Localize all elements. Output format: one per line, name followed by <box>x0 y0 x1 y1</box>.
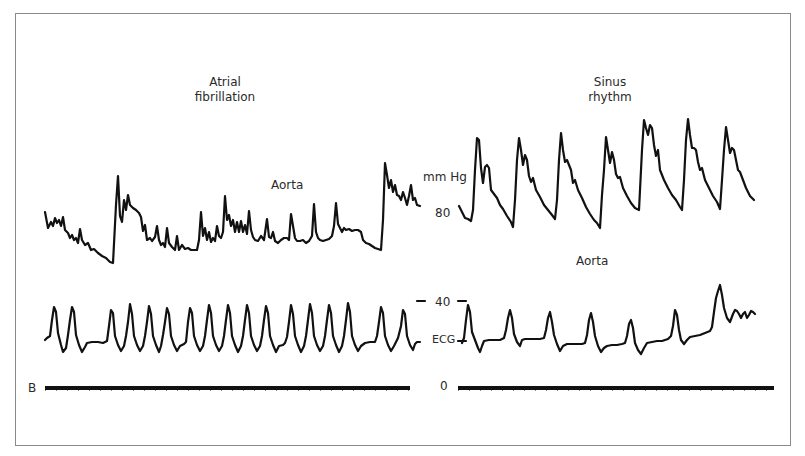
left-ecg-trace <box>45 303 420 352</box>
right-aortic-pressure-trace <box>459 119 754 228</box>
right-ecg-trace <box>462 285 755 354</box>
time-marker-right <box>458 388 774 390</box>
waveform-canvas <box>0 0 805 456</box>
left-aortic-pressure-trace <box>45 163 420 263</box>
time-marker-left <box>45 388 410 390</box>
